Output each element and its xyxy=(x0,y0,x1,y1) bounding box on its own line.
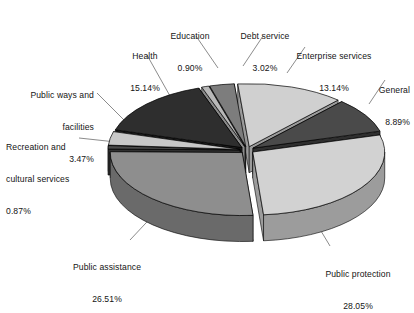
slice-label-general: General 8.89% xyxy=(330,64,410,149)
slice-label-public-protection-pct: 28.05% xyxy=(312,301,404,312)
slice-label-public-assistance: Public assistance 26.51% xyxy=(62,241,152,313)
slice-label-general-name: General xyxy=(330,85,410,96)
slice-label-public-assistance-pct: 26.51% xyxy=(62,294,152,305)
slice-label-recreation-name-line1: Recreation and xyxy=(6,142,98,153)
slice-label-public-protection: Public protection 28.05% xyxy=(312,248,404,313)
slice-label-general-pct: 8.89% xyxy=(330,117,410,128)
slice-label-enterprise-services-name: Enterprise services xyxy=(278,51,390,62)
slice-label-public-protection-name: Public protection xyxy=(312,269,404,280)
slice-label-recreation-pct: 0.87% xyxy=(6,206,98,217)
slice-label-health-pct: 15.14% xyxy=(112,83,178,94)
slice-label-health-name: Health xyxy=(112,51,178,62)
slice-label-recreation-and-cultural-services: Recreation and cultural services 0.87% xyxy=(6,121,98,238)
slice-label-recreation-name-line2: cultural services xyxy=(6,174,98,185)
slice-label-public-assistance-name: Public assistance xyxy=(62,262,152,273)
slice-label-health: Health 15.14% xyxy=(112,30,178,115)
slice-label-public-ways-name-line1: Public ways and xyxy=(10,90,94,101)
